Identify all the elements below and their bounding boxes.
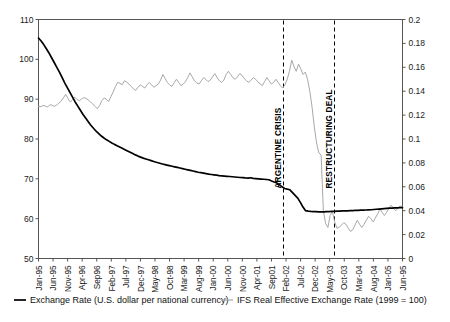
left-axis-tick-label: 90 (24, 94, 34, 104)
annotation-label-2: RESTRUCTURING DEAL (325, 89, 334, 188)
x-axis-tick-label: Aug-04 (370, 265, 379, 292)
right-axis-tick-label: 0.1 (409, 134, 421, 144)
x-axis-tick-label: Mar-99 (180, 265, 189, 291)
right-axis-tick-label: 0.08 (409, 158, 426, 168)
x-axis-tick-label: Jul-02 (297, 265, 306, 288)
x-axis-tick-label: May-98 (151, 265, 160, 293)
x-axis-tick-label: Jan-05 (384, 265, 393, 290)
left-axis-tick-label: 50 (24, 254, 34, 264)
annotation-label-1: ARGENTINE CRISIS (274, 107, 283, 188)
right-axis-tick-label: 0.18 (409, 38, 426, 48)
x-axis-tick-label: Apr-01 (253, 265, 262, 290)
x-axis-tick-label: Aug-99 (195, 265, 204, 292)
x-axis-tick-label: Dec-97 (137, 265, 146, 292)
right-axis-tick-label: 0 (409, 254, 414, 264)
x-axis-tick-label: Jul-97 (122, 265, 131, 288)
exchange-rate-line-chart: 5060708090100110 00.020.040.060.080.10.1… (0, 0, 450, 322)
x-axis-tick-label: Nov-00 (239, 265, 248, 292)
right-axis-tick-label: 0.14 (409, 86, 426, 96)
x-axis-tick-label: Feb-97 (108, 265, 117, 291)
right-axis-tick-label: 0.2 (409, 15, 421, 25)
x-axis-tick-label: Jun-00 (224, 265, 233, 290)
chart-legend: Exchange Rate (U.S. dollar per national … (14, 295, 427, 305)
x-axis-tick-label: Jan-00 (209, 265, 218, 290)
left-axis-tick-label: 80 (24, 134, 34, 144)
right-axis-tick-label: 0.06 (409, 182, 426, 192)
x-axis-tick-label: Jun-95 (49, 265, 58, 290)
x-axis-tick-label: Jun-95 (399, 265, 408, 290)
left-axis-tick-label: 100 (19, 54, 33, 64)
x-axis-tick-label: Nov-95 (64, 265, 73, 292)
left-axis-tick-label: 70 (24, 174, 34, 184)
x-axis-tick-label: Dec-02 (311, 265, 320, 292)
x-axis-tick-label: Sep01 (268, 265, 277, 289)
x-axis-tick-label: Apr-96 (78, 265, 87, 290)
right-axis-tick-label: 0.16 (409, 62, 426, 72)
right-axis-tick-label: 0.12 (409, 110, 426, 120)
left-axis-tick-label: 110 (20, 15, 34, 25)
x-axis-tick-label: Sep96 (93, 265, 102, 289)
x-axis-tick-label: Feb-02 (282, 265, 291, 291)
legend-label-2: IFS Real Effective Exchange Rate (1999 =… (237, 295, 427, 305)
right-axis-tick-label: 0.04 (409, 206, 426, 216)
chart-figure: 5060708090100110 00.020.040.060.080.10.1… (0, 0, 450, 322)
x-axis-tick-label: Mar-04 (355, 265, 364, 291)
x-axis-tick-label: Oct-98 (166, 265, 175, 290)
right-axis-tick-label: 0.02 (409, 230, 426, 240)
x-axis-tick-label: Oct-03 (340, 265, 349, 290)
x-axis-tick-label: May-03 (326, 265, 335, 293)
x-axis-tick-label: Jan-95 (35, 265, 44, 290)
legend-label-1: Exchange Rate (U.S. dollar per national … (30, 295, 229, 305)
left-axis-tick-label: 60 (24, 214, 34, 224)
